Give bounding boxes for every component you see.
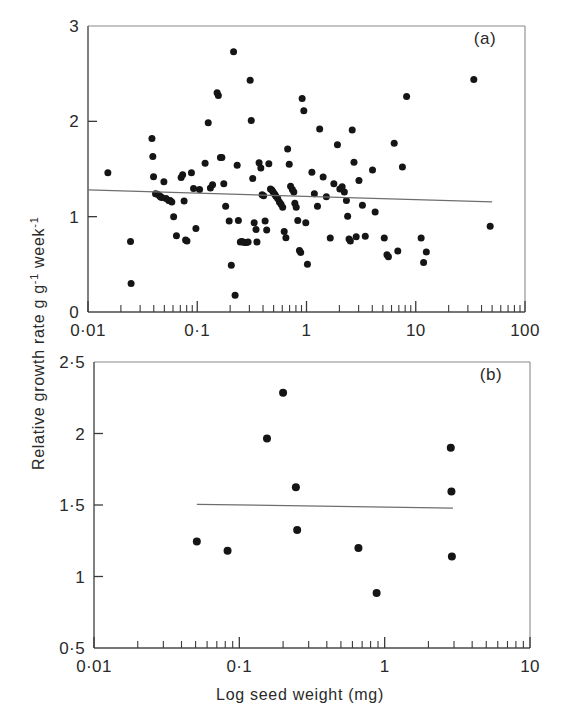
panel-a-points: [104, 48, 493, 299]
panel-b-x-ticks: [94, 637, 530, 648]
data-point: [286, 161, 293, 168]
data-point: [192, 225, 199, 232]
data-point: [418, 235, 425, 242]
data-point: [196, 186, 203, 193]
data-point: [279, 204, 286, 211]
data-point: [104, 169, 111, 176]
panel-a-label: (a): [474, 29, 497, 48]
two-panel-scatter-figure: Relative growth rate g g-1 week-1 0123 0…: [0, 0, 563, 723]
data-point: [299, 95, 306, 102]
data-point: [327, 235, 334, 242]
svg-text:Relative growth rate g g-1 wee: Relative growth rate g g-1 week-1: [28, 217, 47, 470]
data-point: [209, 181, 216, 188]
data-point: [330, 180, 337, 187]
panel-a: 0123 0·010·1110100 (a): [69, 17, 540, 340]
data-point: [193, 537, 201, 545]
panel-b-points: [193, 389, 456, 597]
y-tick-label: 0: [69, 303, 79, 322]
panel-b-y-tick-labels: 0·511·522·5: [59, 353, 85, 658]
data-point: [399, 164, 406, 171]
data-point: [344, 213, 351, 220]
data-point: [354, 544, 362, 552]
data-point: [350, 159, 357, 166]
y-axis-title-main: Relative growth rate g g: [30, 284, 47, 470]
data-point: [423, 248, 430, 255]
data-point: [281, 228, 288, 235]
data-point: [251, 219, 258, 226]
data-point: [373, 589, 381, 597]
data-point: [284, 145, 291, 152]
data-point: [168, 198, 175, 205]
x-axis-title: Log seed weight (mg): [216, 686, 384, 703]
data-point: [230, 48, 237, 55]
data-point: [253, 226, 260, 233]
y-tick-label: 2: [75, 425, 85, 444]
data-point: [235, 217, 242, 224]
data-point: [253, 238, 260, 245]
y-axis-title: Relative growth rate g g-1 week-1: [28, 217, 47, 470]
data-point: [181, 197, 188, 204]
data-point: [297, 249, 304, 256]
data-point: [316, 125, 323, 132]
data-point: [302, 219, 309, 226]
data-point: [202, 160, 209, 167]
data-point: [341, 188, 348, 195]
y-tick-label: 1·5: [59, 496, 85, 515]
data-point: [334, 141, 341, 148]
data-point: [149, 153, 156, 160]
data-point: [218, 154, 225, 161]
x-tick-label: 100: [510, 321, 540, 340]
panel-b: 0·511·522·5 0·010·1110 (b): [59, 353, 540, 676]
data-point: [265, 160, 272, 167]
data-point: [245, 238, 252, 245]
x-tick-label: 0·1: [184, 321, 210, 340]
data-point: [355, 177, 362, 184]
data-point: [127, 238, 134, 245]
data-point: [420, 259, 427, 266]
data-point: [470, 76, 477, 83]
data-point: [294, 217, 301, 224]
panel-a-x-ticks: [88, 301, 525, 312]
x-tick-label: 0·1: [226, 657, 252, 676]
data-point: [385, 253, 392, 260]
data-point: [447, 487, 455, 495]
data-point: [249, 175, 256, 182]
data-point: [314, 203, 321, 210]
data-point: [447, 444, 455, 452]
panel-b-label: (b): [480, 365, 503, 384]
y-tick-label: 0·5: [59, 639, 85, 658]
data-point: [179, 171, 186, 178]
x-tick-label: 1: [380, 657, 390, 676]
x-tick-label: 10: [520, 657, 540, 676]
data-point: [173, 232, 180, 239]
data-point: [304, 261, 311, 268]
data-point: [224, 547, 232, 555]
data-point: [282, 234, 289, 241]
data-point: [320, 174, 327, 181]
data-point: [372, 208, 379, 215]
data-point: [487, 223, 494, 230]
data-point: [353, 233, 360, 240]
data-point: [308, 169, 315, 176]
data-point: [347, 237, 354, 244]
data-point: [226, 217, 233, 224]
data-point: [234, 162, 241, 169]
data-point: [248, 117, 255, 124]
data-point: [279, 389, 287, 397]
y-axis-title-sup1: -1: [28, 273, 40, 284]
data-point: [188, 169, 195, 176]
data-point: [262, 217, 269, 224]
panel-a-x-tick-labels: 0·010·1110100: [70, 321, 540, 340]
data-point: [183, 237, 190, 244]
y-tick-label: 2: [69, 112, 79, 131]
data-point: [362, 233, 369, 240]
data-point: [232, 292, 239, 299]
data-point: [148, 135, 155, 142]
data-point: [381, 235, 388, 242]
y-tick-label: 2·5: [59, 353, 85, 372]
data-point: [290, 188, 297, 195]
x-tick-label: 0·01: [76, 657, 112, 676]
data-point: [205, 119, 212, 126]
data-point: [222, 203, 229, 210]
figure-container: Relative growth rate g g-1 week-1 0123 0…: [0, 0, 563, 723]
